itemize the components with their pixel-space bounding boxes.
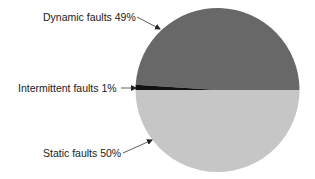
dynamic-faults-label: Dynamic faults 49% xyxy=(43,11,136,23)
static-faults-slice xyxy=(136,90,300,172)
dynamic-arrow xyxy=(137,17,160,29)
dynamic-faults-slice xyxy=(136,8,300,90)
pie-slices xyxy=(136,8,300,172)
static-arrow xyxy=(123,140,152,153)
intermittent-faults-label: Intermittent faults 1% xyxy=(18,82,117,94)
static-faults-label: Static faults 50% xyxy=(43,147,121,159)
